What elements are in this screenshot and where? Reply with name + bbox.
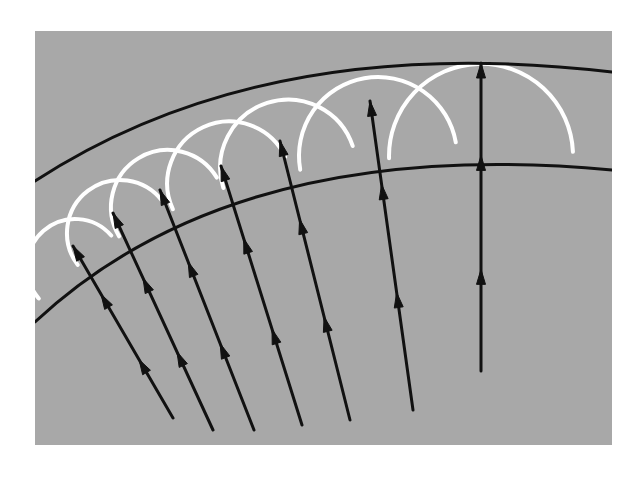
wavefront-diagram <box>0 0 639 479</box>
gray-plate <box>35 31 612 445</box>
figure-root <box>0 0 639 479</box>
